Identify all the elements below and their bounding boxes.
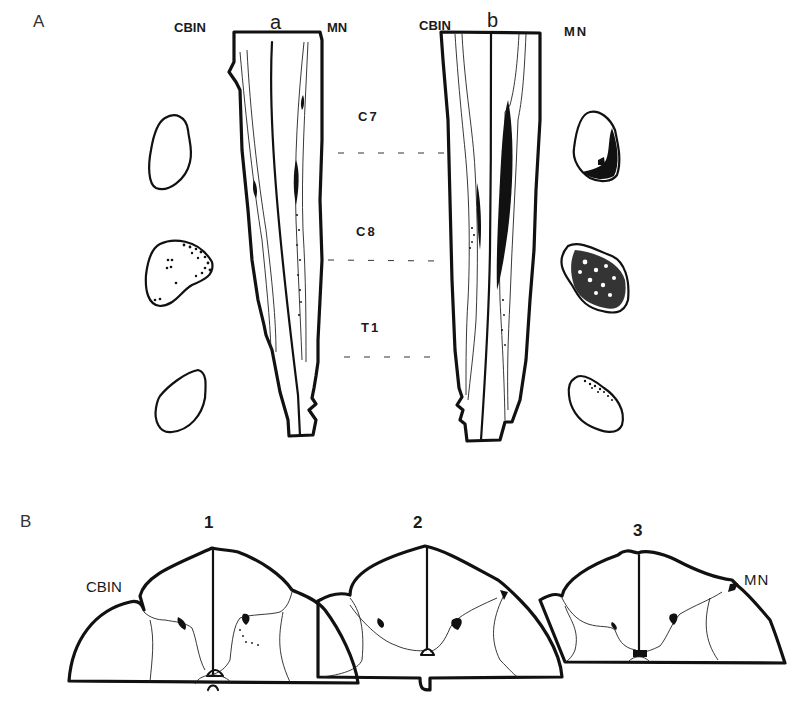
figure-drawing (0, 0, 804, 701)
prep-a-ganglia (146, 115, 213, 432)
segment-boundaries (328, 153, 445, 357)
section-1-cross-section (69, 548, 358, 690)
prep-b-ganglia (561, 112, 628, 432)
prep-b-spinal-cord (441, 32, 540, 441)
prep-a-spinal-cord (229, 32, 322, 436)
section-3-cross-section (540, 551, 785, 663)
section-2-cross-section (318, 546, 562, 690)
